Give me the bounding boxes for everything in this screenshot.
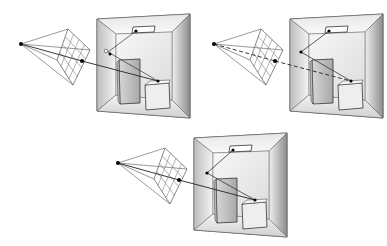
room-box xyxy=(290,14,383,118)
pixel-point xyxy=(273,59,277,63)
panel-top-left xyxy=(19,14,190,118)
small-sphere xyxy=(104,49,108,53)
surface-hit-point xyxy=(156,79,159,82)
panel-top-right xyxy=(212,14,383,118)
surface-hit-point xyxy=(253,198,256,201)
room-box xyxy=(97,14,190,118)
panel-bottom-center xyxy=(116,133,287,237)
camera-with-image-plane xyxy=(212,29,283,85)
hit-point xyxy=(109,53,112,56)
light-point xyxy=(231,148,234,151)
camera-with-image-plane xyxy=(116,148,187,204)
hit-point xyxy=(299,50,302,53)
surface-hit-point xyxy=(349,79,352,82)
hit-point xyxy=(205,171,208,174)
camera-with-image-plane xyxy=(19,29,90,85)
pixel-point xyxy=(80,59,84,63)
pixel-point xyxy=(177,178,181,182)
light-point xyxy=(327,29,330,32)
ray-tracing-diagram xyxy=(0,0,387,246)
light-point xyxy=(134,29,137,32)
room-box xyxy=(194,133,287,237)
